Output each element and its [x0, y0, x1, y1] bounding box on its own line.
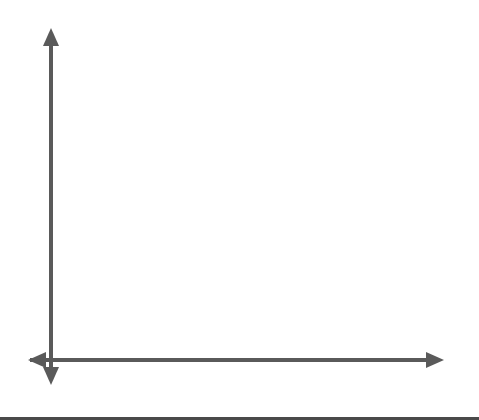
x-axis [28, 352, 444, 368]
y-axis-arrow-up-icon [43, 28, 59, 46]
y-axis [43, 28, 59, 385]
x-axis-arrow-left-icon [28, 352, 46, 368]
x-axis-arrow-right-icon [426, 352, 444, 368]
y-axis-arrow-down-icon [43, 367, 59, 385]
coordinate-plane [0, 0, 479, 420]
